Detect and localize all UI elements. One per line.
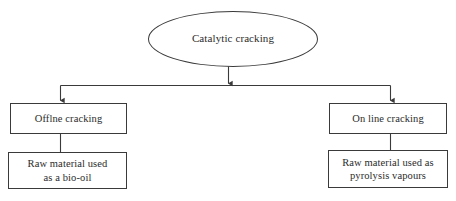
node-catalytic-cracking-label: Catalytic cracking	[192, 32, 274, 46]
node-raw-material-pyrolysis-vapours: Raw material used as pyrolysis vapours	[328, 150, 448, 188]
node-online-cracking-label: On line cracking	[352, 112, 424, 125]
node-online-cracking: On line cracking	[329, 103, 447, 134]
node-raw-material-bio-oil: Raw material used as a bio-oil	[8, 152, 127, 189]
node-catalytic-cracking: Catalytic cracking	[148, 11, 318, 67]
node-raw-material-pyrolysis-vapours-label: Raw material used as pyrolysis vapours	[342, 156, 434, 182]
node-offline-cracking: Offlne cracking	[10, 103, 127, 134]
node-offline-cracking-label: Offlne cracking	[35, 112, 102, 125]
flowchart-diagram: Catalytic cracking Offlne cracking On li…	[0, 0, 456, 201]
node-raw-material-bio-oil-label: Raw material used as a bio-oil	[28, 157, 108, 183]
